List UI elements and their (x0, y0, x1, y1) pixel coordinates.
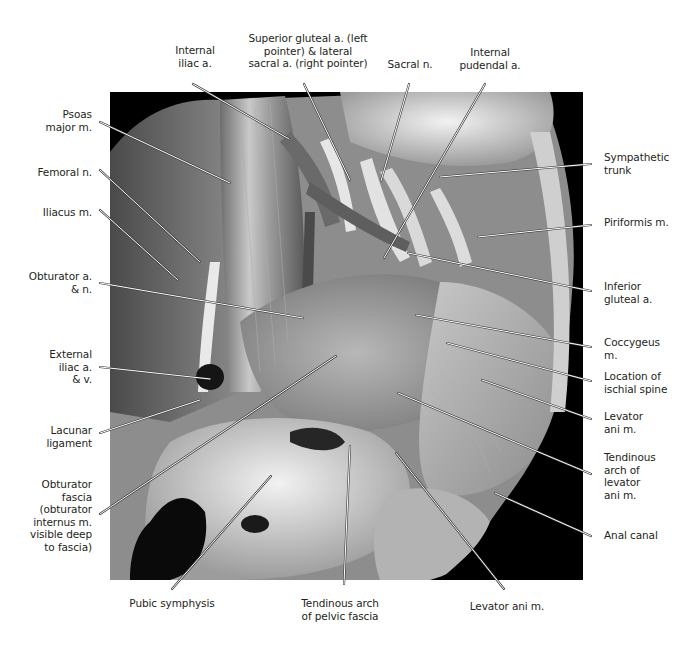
anatomy-figure: Internal iliac a. Superior gluteal a. (l… (0, 0, 694, 646)
label-levator-ani-m-bottom: Levator ani m. (462, 600, 552, 613)
label-internal-iliac-a: Internal iliac a. (160, 44, 230, 69)
label-iliacus-m: Iliacus m. (10, 206, 92, 219)
label-internal-pudendal-a: Internal pudendal a. (450, 46, 530, 71)
label-femoral-n: Femoral n. (10, 166, 92, 179)
label-psoas-major-m: Psoas major m. (10, 108, 92, 133)
label-sympathetic-trunk: Sympathetic trunk (604, 151, 694, 176)
label-obturator-fascia: Obturator fascia (obturator internus m. … (4, 478, 92, 553)
pelvis-dissection-photo (110, 92, 583, 580)
photo-illustration (110, 92, 583, 580)
label-pubic-symphysis: Pubic symphysis (122, 597, 222, 610)
label-superior-gluteal-lateral-sacral: Superior gluteal a. (left pointer) & lat… (238, 32, 378, 70)
label-obturator-a-n: Obturator a. & n. (10, 270, 92, 295)
label-tendinous-arch-pelvic-fascia: Tendinous arch of pelvic fascia (290, 597, 390, 622)
label-external-iliac-a-v: External iliac a. & v. (10, 348, 92, 386)
label-sacral-n: Sacral n. (380, 58, 440, 71)
label-levator-ani-m-right: Levator ani m. (604, 410, 694, 435)
label-anal-canal: Anal canal (604, 529, 694, 542)
label-inferior-gluteal-a: Inferior gluteal a. (604, 280, 694, 305)
label-tendinous-arch-levator-ani: Tendinous arch of levator ani m. (604, 451, 694, 501)
label-coccygeus-m: Coccygeus m. (604, 336, 694, 361)
label-lacunar-ligament: Lacunar ligament (10, 424, 92, 449)
label-location-ischial-spine: Location of ischial spine (604, 370, 694, 395)
label-piriformis-m: Piriformis m. (604, 216, 694, 229)
